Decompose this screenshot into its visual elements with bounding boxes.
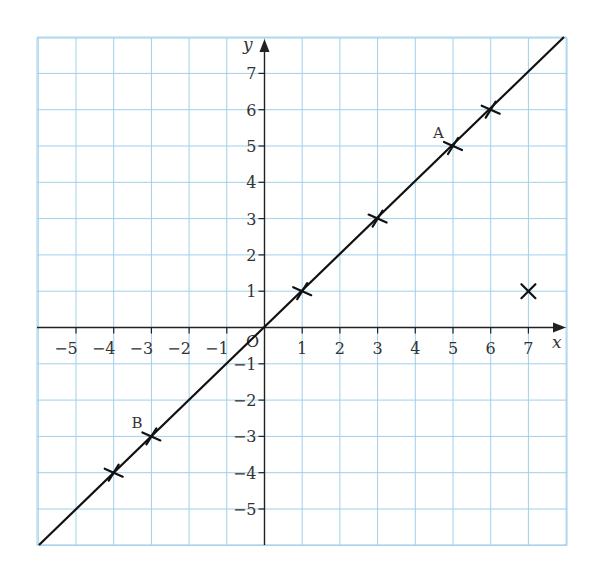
y-tick-label: 5 (246, 137, 256, 156)
y-axis-arrow-icon (260, 39, 270, 52)
y-tick-label: −3 (233, 427, 257, 446)
point-label-b: B (131, 414, 142, 432)
y-tick-label: −1 (233, 355, 257, 374)
x-axis-arrow-icon (553, 323, 566, 333)
point-labels: BA (131, 124, 444, 432)
point-label-a: A (432, 124, 444, 142)
x-tick-label: 1 (297, 339, 307, 358)
x-tick-label: 4 (410, 339, 420, 358)
x-tick-label: 3 (373, 339, 383, 358)
y-tick-label: 6 (246, 101, 256, 120)
y-tick-label: 7 (246, 64, 256, 83)
x-tick-label: −2 (167, 339, 191, 358)
x-tick-label: 2 (335, 339, 345, 358)
y-tick-label: 2 (246, 246, 256, 265)
x-tick-label: −3 (130, 339, 154, 358)
coordinate-chart: xyO −5−4−3−2−112345677654321−1−2−3−4−5 B… (0, 0, 594, 573)
x-axis-label: x (552, 332, 562, 352)
x-tick-label: −1 (205, 339, 229, 358)
y-tick-label: 4 (246, 173, 256, 192)
x-tick-label: 5 (448, 339, 458, 358)
x-tick-label: −5 (54, 339, 78, 358)
y-axis-label: y (242, 34, 253, 54)
y-tick-label: −4 (233, 464, 257, 483)
x-tick-label: 7 (523, 339, 533, 358)
y-tick-label: 1 (246, 282, 256, 301)
y-tick-label: −2 (233, 391, 257, 410)
x-tick-label: 6 (486, 339, 496, 358)
x-tick-label: −4 (92, 339, 116, 358)
y-tick-label: 3 (246, 210, 256, 229)
y-tick-label: −5 (233, 500, 257, 519)
